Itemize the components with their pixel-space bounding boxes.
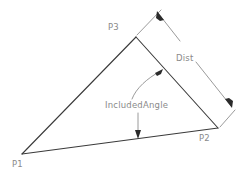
included-angle-arrowhead-lower [135,130,141,139]
edge-p2-p1 [22,128,218,154]
edge-p3-p2 [136,37,218,128]
dist-extension-line-p2 [220,110,235,127]
annotation-label-included-angle: IncludedAngle [105,101,168,110]
vertex-label-p2: P2 [199,134,210,143]
dist-arrowhead-top [156,11,164,21]
diagram-canvas: P1 P2 P3 Dist IncludedAngle [0,0,252,176]
included-angle-arrowhead-upper [155,69,163,76]
vertex-label-p3: P3 [108,23,119,32]
included-angle-curved-leader [132,72,159,99]
vertex-label-p1: P1 [12,160,23,169]
triangle-diagram [0,0,252,176]
edge-p1-p3 [22,37,136,154]
dist-arrowhead-bottom [225,98,233,108]
dimension-label-dist: Dist [176,54,193,63]
